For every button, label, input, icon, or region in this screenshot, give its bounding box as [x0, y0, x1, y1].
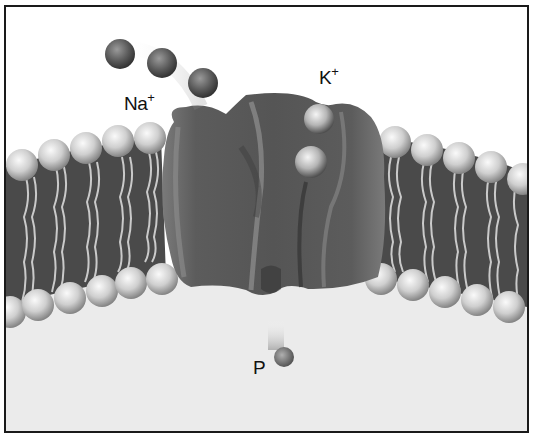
sodium-label-charge: + [147, 90, 154, 105]
diagram-frame: Na+ K+ P [4, 5, 529, 433]
pump-protein [162, 93, 385, 295]
phosphate-label: P [253, 357, 265, 379]
sodium-label-base: Na [124, 93, 147, 114]
potassium-label-base: K [319, 67, 331, 88]
phosphate-label-base: P [253, 357, 265, 378]
potassium-ion-label: K+ [319, 67, 338, 89]
sodium-ion-label: Na+ [124, 93, 154, 115]
sodium-potassium-pump-diagram [6, 7, 527, 431]
potassium-label-charge: + [331, 64, 338, 79]
sodium-ions [105, 39, 218, 107]
